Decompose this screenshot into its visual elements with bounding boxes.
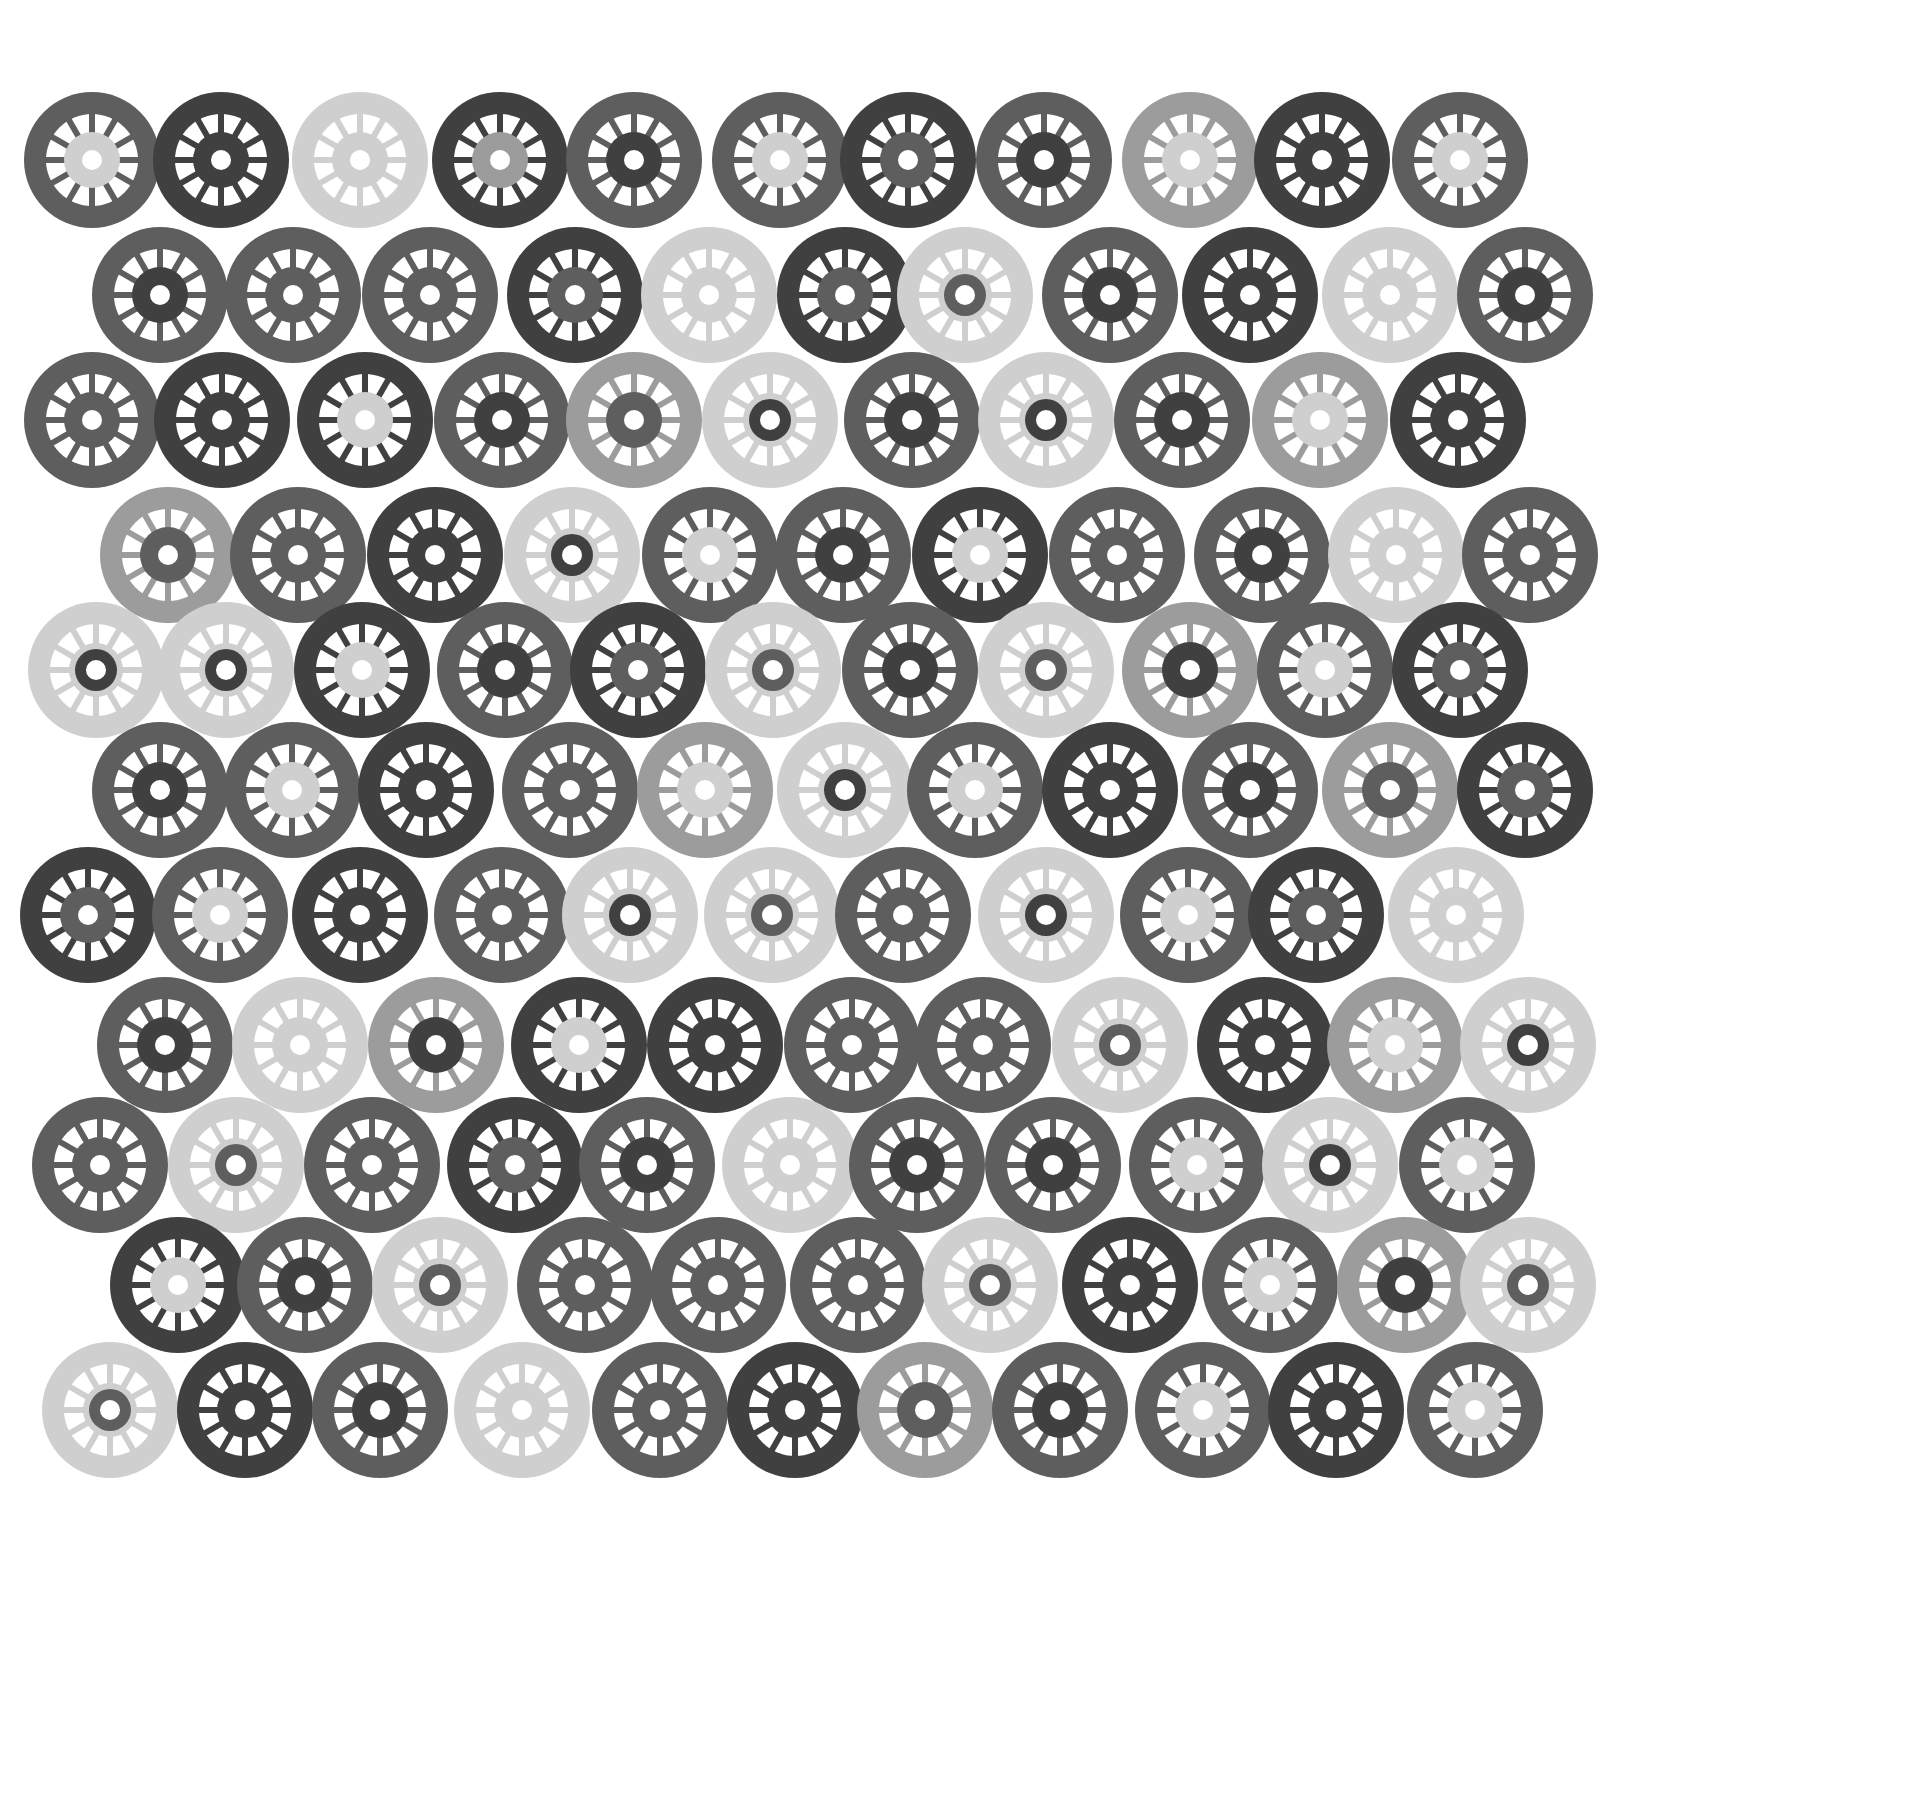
wheel-axle-hole (425, 545, 445, 565)
wheel-spoke (777, 186, 783, 207)
wheel-spoke (767, 446, 773, 467)
wheel-axle-hole (495, 660, 515, 680)
wheel-spoke (186, 292, 207, 298)
wheel-icon (507, 227, 643, 363)
wheel-axle-hole (1457, 1155, 1477, 1175)
wheel-spoke (1185, 941, 1191, 962)
wheel-spoke (136, 1407, 157, 1413)
wheel-spoke (1216, 667, 1237, 673)
wheel-spoke (1522, 321, 1528, 342)
wheel-axle-hole (512, 1400, 532, 1420)
wheel-icon (511, 977, 647, 1113)
wheel-spoke (433, 998, 439, 1019)
wheel-pattern-canvas (0, 0, 1909, 1805)
wheel-spoke (497, 113, 503, 134)
wheel-spoke (743, 1162, 764, 1168)
wheel-spoke (777, 113, 783, 134)
wheel-spoke (1420, 1162, 1441, 1168)
wheel-icon (784, 977, 920, 1113)
wheel-spoke (631, 446, 637, 467)
wheel-spoke (1070, 552, 1091, 558)
wheel-icon (985, 1097, 1121, 1233)
wheel-icon (42, 1342, 178, 1478)
wheel-spoke (1050, 1191, 1056, 1212)
wheel-spoke (1288, 552, 1309, 558)
wheel-spoke (1525, 1238, 1531, 1259)
wheel-spoke (842, 816, 848, 837)
wheel-spoke (1057, 1363, 1063, 1384)
wheel-axle-hole (1240, 285, 1260, 305)
wheel-spoke (512, 1191, 518, 1212)
wheel-icon (32, 1097, 168, 1233)
wheel-spoke (118, 1042, 139, 1048)
wheel-icon (230, 487, 366, 623)
wheel-icon (1122, 602, 1258, 738)
wheel-spoke (1416, 787, 1437, 793)
wheel-axle-hole (955, 285, 975, 305)
wheel-icon (978, 602, 1114, 738)
wheel-spoke (1393, 581, 1399, 602)
wheel-spoke (1114, 508, 1120, 529)
wheel-spoke (748, 1407, 769, 1413)
wheel-axle-hole (1107, 545, 1127, 565)
wheel-spoke (1006, 552, 1027, 558)
wheel-spoke (223, 623, 229, 644)
wheel-spoke (1317, 446, 1323, 467)
wheel-spoke (89, 373, 95, 394)
wheel-icon (1202, 1217, 1338, 1353)
wheel-spoke (1346, 417, 1367, 423)
wheel-spoke (165, 581, 171, 602)
wheel-spoke (289, 816, 295, 837)
wheel-spoke (1200, 1363, 1206, 1384)
wheel-spoke (1551, 787, 1572, 793)
wheel-spoke (1481, 1282, 1502, 1288)
wheel-spoke (246, 912, 267, 918)
wheel-spoke (943, 1162, 964, 1168)
wheel-icon (1388, 847, 1524, 983)
wheel-spoke (1114, 581, 1120, 602)
wheel-axle-hole (1515, 780, 1535, 800)
wheel-spoke (1319, 186, 1325, 207)
wheel-icon (562, 847, 698, 983)
wheel-spoke (1387, 816, 1393, 837)
wheel-spoke (1472, 1363, 1478, 1384)
wheel-spoke (437, 1311, 443, 1332)
wheel-spoke (179, 667, 200, 673)
wheel-spoke (1070, 157, 1091, 163)
wheel-spoke (1322, 696, 1328, 717)
wheel-icon (1262, 1097, 1398, 1233)
wheel-spoke (1472, 1436, 1478, 1457)
wheel-row (110, 1217, 1596, 1353)
wheel-axle-hole (288, 545, 308, 565)
wheel-spoke (1179, 446, 1185, 467)
wheel-spoke (1107, 816, 1113, 837)
wheel-spoke (1348, 1042, 1369, 1048)
wheel-spoke (798, 292, 819, 298)
wheel-spoke (386, 912, 407, 918)
wheel-spoke (1247, 321, 1253, 342)
wheel-spoke (1127, 1311, 1133, 1332)
wheel-row (24, 92, 1528, 228)
wheel-icon (294, 602, 430, 738)
wheel-icon (570, 602, 706, 738)
wheel-spoke (715, 1311, 721, 1332)
wheel-spoke (157, 816, 163, 837)
wheel-spoke (162, 1071, 168, 1092)
wheel-axle-hole (1518, 1035, 1538, 1055)
wheel-spoke (1387, 321, 1393, 342)
wheel-icon (304, 1097, 440, 1233)
wheel-spoke (1522, 743, 1528, 764)
wheel-axle-hole (915, 1400, 935, 1420)
wheel-spoke (914, 1118, 920, 1139)
wheel-spoke (712, 1071, 718, 1092)
wheel-icon (840, 92, 976, 228)
wheel-icon (312, 1342, 448, 1478)
wheel-spoke (541, 1162, 562, 1168)
wheel-spoke (423, 743, 429, 764)
wheel-axle-hole (760, 410, 780, 430)
wheel-axle-hole (695, 780, 715, 800)
wheel-spoke (1229, 1407, 1250, 1413)
wheel-spoke (907, 623, 913, 644)
wheel-row (24, 352, 1526, 488)
wheel-spoke (194, 552, 215, 558)
